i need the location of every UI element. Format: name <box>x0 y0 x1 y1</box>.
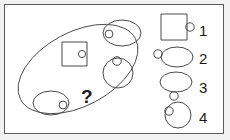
option-3-ellipse-outline[interactable] <box>160 72 192 92</box>
item-ellipse-top-inner-dot-icon <box>105 30 113 38</box>
item-circle-right <box>103 57 133 88</box>
question-mark-placeholder: ? <box>81 86 93 107</box>
large-tilted-ellipse <box>5 6 153 132</box>
large-tilted-ellipse-outline <box>5 6 153 132</box>
item-circle-right-outline <box>103 58 133 88</box>
option-1[interactable]: 1 <box>161 14 207 40</box>
item-square-inner-dot-icon <box>78 50 85 57</box>
option-2-number[interactable]: 2 <box>199 50 207 67</box>
item-ellipse-bottom-outline <box>33 91 69 115</box>
item-ellipse-bottom-inner-dot-icon <box>59 101 67 109</box>
item-ellipse-bottom <box>33 91 69 115</box>
option-4-number[interactable]: 4 <box>199 109 207 126</box>
option-3-number[interactable]: 3 <box>199 79 207 96</box>
item-ellipse-top <box>103 20 141 46</box>
option-1-number[interactable]: 1 <box>199 22 207 39</box>
item-square-outline <box>62 42 87 66</box>
option-1-square-outline[interactable] <box>161 14 187 40</box>
option-4[interactable]: 4 <box>165 102 208 128</box>
item-square <box>62 42 87 66</box>
item-ellipse-top-outline <box>103 20 141 46</box>
option-2-ellipse-outline[interactable] <box>161 47 193 67</box>
puzzle-frame: ? 1 2 3 4 <box>4 4 224 134</box>
option-2-dot-icon[interactable] <box>154 50 162 58</box>
puzzle-figure: ? 1 2 3 4 <box>5 5 225 135</box>
option-2[interactable]: 2 <box>154 47 208 67</box>
option-3-dot-icon[interactable] <box>170 92 178 100</box>
option-3[interactable]: 3 <box>160 72 207 100</box>
